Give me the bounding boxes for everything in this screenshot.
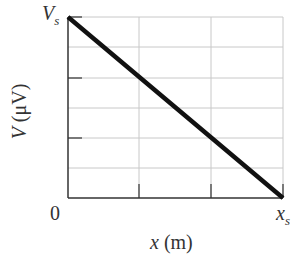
chart-plot [0, 0, 307, 264]
xs-subscript: s [285, 213, 290, 228]
x-axis-unit: (m) [159, 231, 193, 253]
xs-letter: x [276, 202, 285, 224]
vs-letter: V [42, 2, 54, 24]
y-axis-unit: (μV) [8, 84, 30, 128]
x-axis-var: x [150, 231, 159, 253]
x-axis-label: x (m) [150, 231, 193, 254]
x-tick-origin: 0 [50, 202, 60, 225]
y-tick-vs: Vs [42, 2, 59, 29]
y-axis-label: V (μV) [8, 77, 31, 147]
y-axis-var: V [8, 127, 30, 139]
vs-subscript: s [54, 13, 59, 28]
x-tick-xs: xs [276, 202, 290, 229]
